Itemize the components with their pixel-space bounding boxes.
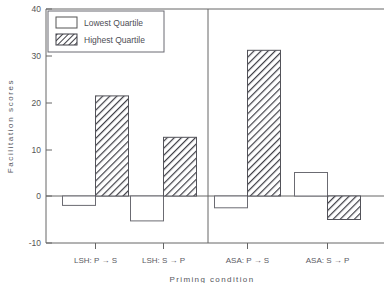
x-tick-label-lsh-p-to-s: LSH: P → S [74, 256, 117, 265]
y-tick-label: 30 [32, 51, 42, 61]
bar-highest-quartile [328, 196, 361, 220]
x-tick-label-asa-p-to-s: ASA: P → S [226, 256, 269, 265]
hollow-square-icon [56, 17, 77, 28]
y-tick-label: 10 [32, 145, 42, 155]
bar-highest-quartile [164, 137, 197, 196]
bar-lowest-quartile [131, 196, 164, 221]
chart-container: 40 30 20 10 0 -10 Facil [0, 0, 385, 283]
grouped-bar-chart: 40 30 20 10 0 -10 Facil [0, 0, 385, 283]
bar-lowest-quartile [215, 196, 248, 208]
y-axis-title: Facilitation scores [6, 79, 15, 173]
y-tick-label: 20 [32, 98, 42, 108]
legend-label: Highest Quartile [84, 35, 145, 45]
x-tick-label-asa-s-to-p: ASA: S → P [306, 256, 350, 265]
chart-legend: Lowest Quartile Highest Quartile [48, 11, 164, 52]
x-axis-title: Priming condition [169, 275, 254, 283]
bar-lowest-quartile [63, 196, 96, 205]
y-tick-label: 0 [36, 191, 41, 201]
bar-lowest-quartile [295, 173, 328, 197]
hatched-square-icon [56, 34, 77, 45]
x-tick-label-lsh-s-to-p: LSH: S → P [142, 256, 185, 265]
legend-label: Lowest Quartile [84, 18, 143, 28]
bar-highest-quartile [96, 96, 129, 196]
legend-item-lowest-quartile: Lowest Quartile [56, 17, 143, 28]
y-tick-label: -10 [29, 238, 42, 248]
legend-item-highest-quartile: Highest Quartile [56, 34, 145, 45]
y-tick-label: 40 [32, 4, 42, 14]
bar-highest-quartile [248, 50, 281, 196]
